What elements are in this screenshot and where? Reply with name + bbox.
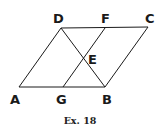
label-b: B — [102, 92, 112, 107]
label-e: E — [88, 52, 97, 67]
label-f: F — [101, 11, 110, 26]
label-d: D — [53, 11, 64, 26]
label-a: A — [10, 92, 20, 107]
segment-ad — [19, 28, 61, 87]
geometry-figure: D F C E A G B Ex. 18 — [0, 0, 159, 133]
figure-caption: Ex. 18 — [64, 115, 97, 126]
segment-bc — [105, 27, 148, 87]
label-g: G — [56, 92, 67, 107]
label-c: C — [145, 11, 155, 26]
